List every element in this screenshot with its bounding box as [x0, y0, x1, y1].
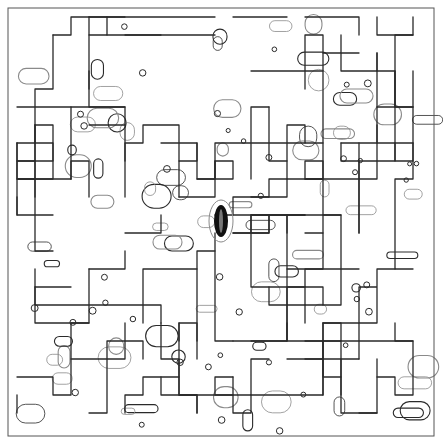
maze-artwork: [0, 0, 443, 446]
